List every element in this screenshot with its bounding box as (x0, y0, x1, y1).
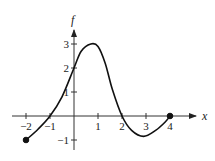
x-axis-label: x (201, 109, 208, 123)
endpoint-dot (167, 113, 173, 119)
axis-ticks: −2−11234−1123 (20, 38, 173, 146)
endpoint-dot (23, 137, 29, 143)
function-graph: −2−11234−1123 x f (0, 0, 215, 161)
x-tick-label: 1 (95, 120, 101, 132)
y-axis-label: f (71, 13, 76, 27)
y-tick-label: 2 (64, 62, 70, 74)
plot-area: −2−11234−1123 x f (0, 0, 215, 161)
x-tick-label: −2 (20, 120, 32, 132)
y-tick-label: −1 (57, 134, 69, 146)
x-tick-label: 3 (143, 120, 149, 132)
x-tick-label: 4 (167, 120, 173, 132)
x-tick-label: 2 (119, 120, 125, 132)
y-tick-label: 3 (64, 38, 70, 50)
